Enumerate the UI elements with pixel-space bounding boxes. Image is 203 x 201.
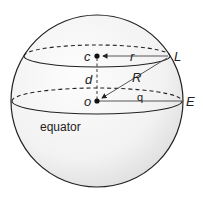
label-L: L [174,49,181,64]
sphere-diagram-svg: c r L d R o q E equator [0,0,203,201]
point-c [94,53,99,58]
label-o: o [84,94,91,109]
label-E: E [186,94,195,109]
label-r: r [130,49,135,64]
label-equator: equator [40,120,81,134]
label-q: q [137,91,143,103]
label-R: R [132,70,141,85]
label-c: c [84,49,91,64]
label-d: d [85,72,93,87]
point-o [94,98,99,103]
sphere-diagram: c r L d R o q E equator [0,0,203,201]
